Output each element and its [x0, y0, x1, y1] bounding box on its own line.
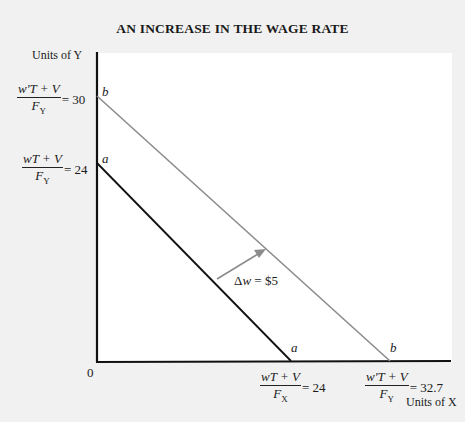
x-intercept-a-value: = 24 — [302, 380, 326, 396]
x-intercept-b-value: = 32.7 — [410, 380, 443, 396]
plot-background — [97, 53, 452, 362]
y-intercept-a-label: wT + V FY = 24 — [22, 152, 87, 189]
point-b-bottom: b — [390, 340, 397, 356]
x-intercept-a-label: wT + V FX = 24 — [260, 370, 325, 407]
point-a-bottom: a — [291, 340, 298, 356]
y-intercept-a-value: = 24 — [64, 162, 88, 178]
x-intercept-b-numerator: w'T + V — [365, 370, 409, 386]
wage-change-annotation: Δw = $5 — [234, 273, 278, 289]
x-intercept-a-denominator: F — [273, 386, 281, 401]
y-intercept-b-value: = 30 — [62, 92, 86, 108]
point-b-top: b — [102, 84, 109, 100]
x-intercept-b-label: w'T + V FY = 32.7 — [365, 370, 443, 407]
x-intercept-b-denominator: F — [380, 386, 388, 401]
y-axis-label: Units of Y — [32, 48, 82, 63]
y-intercept-b-sub: Y — [40, 106, 47, 116]
origin-label: 0 — [87, 365, 94, 381]
x-intercept-a-sub: X — [281, 394, 288, 404]
y-intercept-a-numerator: wT + V — [22, 152, 63, 168]
y-intercept-a-sub: Y — [43, 176, 50, 186]
x-axis — [96, 361, 451, 362]
y-intercept-a-denominator: F — [35, 168, 43, 183]
point-a-top: a — [102, 151, 109, 167]
y-intercept-b-label: w'T + V FY = 30 — [17, 82, 85, 119]
delta-value: = $5 — [251, 273, 278, 288]
x-intercept-a-numerator: wT + V — [260, 370, 301, 386]
delta-variable: w — [242, 273, 251, 288]
y-intercept-b-numerator: w'T + V — [17, 82, 61, 98]
y-intercept-b-denominator: F — [32, 98, 40, 113]
x-intercept-b-sub: Y — [388, 394, 395, 404]
plot-area — [0, 0, 465, 422]
